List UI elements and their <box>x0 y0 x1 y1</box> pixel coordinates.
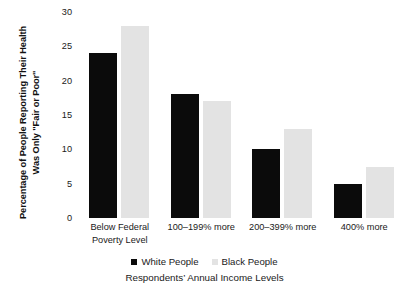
legend-item[interactable]: Black People <box>212 256 278 267</box>
y-axis-tick-label: 25 <box>48 41 72 51</box>
legend-swatch-icon <box>212 259 218 265</box>
bar[interactable] <box>284 129 312 218</box>
bar[interactable] <box>171 94 199 218</box>
bar[interactable] <box>121 26 149 218</box>
y-axis-tick-label: 5 <box>48 179 72 189</box>
legend-item[interactable]: White People <box>131 256 198 267</box>
y-axis-tick-label: 0 <box>48 213 72 223</box>
legend-swatch-icon <box>131 259 137 265</box>
x-axis-title: Respondents’ Annual Income Levels <box>0 272 409 284</box>
x-axis-category-label: 400% more <box>321 221 403 253</box>
bar-groups <box>76 12 402 218</box>
bar[interactable] <box>334 184 362 218</box>
bar-group <box>158 12 240 218</box>
y-axis-tick-label: 15 <box>48 110 72 120</box>
y-axis-tick-label: 30 <box>48 7 72 17</box>
legend-label: Black People <box>222 256 278 267</box>
bar[interactable] <box>252 149 280 218</box>
bar-group <box>76 12 158 218</box>
x-axis-category-label: Below Federal Poverty Level <box>76 221 158 253</box>
x-axis-category-labels: Below Federal Poverty Level100–199% more… <box>76 221 402 253</box>
bar-group <box>239 12 321 218</box>
bar[interactable] <box>89 53 117 218</box>
bar-group <box>321 12 403 218</box>
plot-area <box>76 12 402 218</box>
y-axis-title: Percentage of People Reporting Their Hea… <box>17 18 42 228</box>
legend: White PeopleBlack People <box>0 256 409 267</box>
x-axis-category-label: 200–399% more <box>239 221 321 253</box>
y-axis-tick-label: 10 <box>48 144 72 154</box>
bar[interactable] <box>366 167 394 219</box>
x-axis-category-label: 100–199% more <box>158 221 240 253</box>
bar-chart: Percentage of People Reporting Their Hea… <box>0 0 409 288</box>
bar[interactable] <box>203 101 231 218</box>
legend-label: White People <box>141 256 198 267</box>
y-axis-tick-labels: 051015202530 <box>48 12 72 218</box>
y-axis-tick-label: 20 <box>48 76 72 86</box>
